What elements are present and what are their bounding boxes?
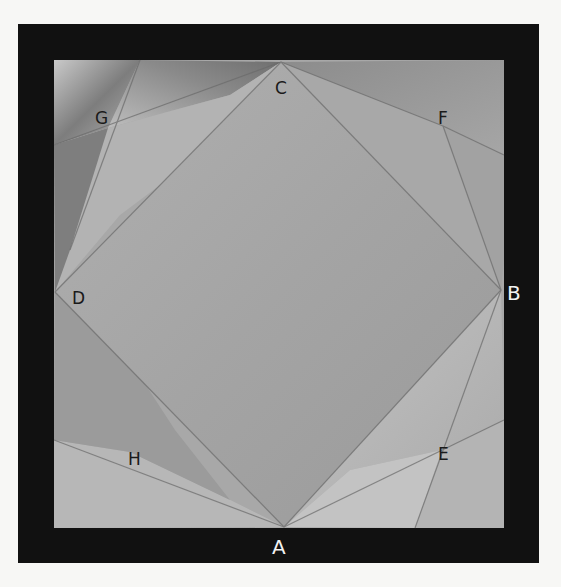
label-C: C (275, 78, 287, 98)
label-G: G (95, 108, 108, 128)
label-A: A (272, 535, 286, 559)
label-E: E (438, 444, 449, 464)
paper-folding-figure: C F G D B H E A (0, 0, 561, 587)
label-F: F (438, 108, 448, 128)
label-B: B (507, 281, 521, 305)
label-D: D (72, 288, 85, 308)
label-H: H (128, 449, 141, 469)
